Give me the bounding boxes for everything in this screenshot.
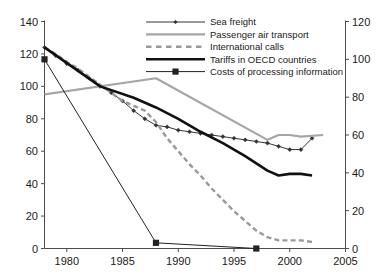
legend-label: Sea freight: [210, 16, 256, 27]
legend-item: Tariffs in OECD countries: [146, 54, 317, 65]
legend-marker: [172, 69, 178, 75]
y-axis-left-tick-label: 80: [26, 113, 38, 125]
legend-marker: [173, 20, 177, 24]
data-point-marker: [243, 138, 247, 142]
data-point-marker: [232, 136, 236, 140]
data-point-marker: [165, 125, 169, 129]
x-axis-tick-label: 1985: [110, 255, 134, 267]
y-axis-left-tick-label: 60: [26, 145, 38, 157]
data-point-marker: [265, 141, 269, 145]
data-point-marker: [254, 139, 258, 143]
y-axis-right-tick-label: 0: [352, 243, 358, 255]
data-point-marker: [221, 135, 225, 139]
data-point-marker: [153, 240, 159, 246]
legend-item: Passenger air transport: [146, 29, 309, 40]
legend: Sea freightPassenger air transportIntern…: [146, 16, 343, 77]
legend-label: Tariffs in OECD countries: [210, 54, 317, 65]
legend-item: Costs of processing information: [146, 66, 343, 77]
line-chart: 0204060801001201400204060801001201980198…: [0, 0, 383, 280]
data-point-marker: [277, 144, 281, 148]
y-axis-left-tick-label: 20: [26, 210, 38, 222]
x-axis-tick-label: 1990: [166, 255, 190, 267]
series-line: [45, 59, 257, 248]
series-costs-of-processing-information: [41, 56, 259, 251]
x-axis-tick-label: 2000: [278, 255, 302, 267]
legend-item: International calls: [146, 41, 284, 52]
y-axis-left-tick-label: 120: [20, 48, 38, 60]
y-axis-right-tick-label: 80: [352, 91, 364, 103]
data-point-marker: [154, 123, 158, 127]
legend-label: International calls: [210, 41, 284, 52]
y-axis-right-tick-label: 120: [352, 16, 370, 28]
data-point-marker: [41, 56, 47, 62]
y-axis-left-tick-label: 40: [26, 178, 38, 190]
data-point-marker: [288, 147, 292, 151]
y-axis-left-tick-label: 0: [32, 243, 38, 255]
legend-label: Costs of processing information: [210, 66, 343, 77]
x-axis-tick-label: 1995: [222, 255, 246, 267]
y-axis-right-tick-label: 60: [352, 129, 364, 141]
legend-label: Passenger air transport: [210, 29, 309, 40]
y-axis-right-tick-label: 40: [352, 167, 364, 179]
axes: 0204060801001201400204060801001201980198…: [20, 16, 371, 267]
y-axis-right-tick-label: 100: [352, 53, 370, 65]
data-point-marker: [253, 245, 259, 251]
chart-container: 0204060801001201400204060801001201980198…: [0, 0, 383, 280]
data-point-marker: [176, 128, 180, 132]
x-axis-tick-label: 2005: [333, 255, 357, 267]
data-point-marker: [187, 130, 191, 134]
y-axis-left-tick-label: 100: [20, 80, 38, 92]
y-axis-right-tick-label: 20: [352, 205, 364, 217]
y-axis-left-tick-label: 140: [20, 16, 38, 28]
legend-item: Sea freight: [146, 16, 256, 27]
x-axis-tick-label: 1980: [55, 255, 79, 267]
